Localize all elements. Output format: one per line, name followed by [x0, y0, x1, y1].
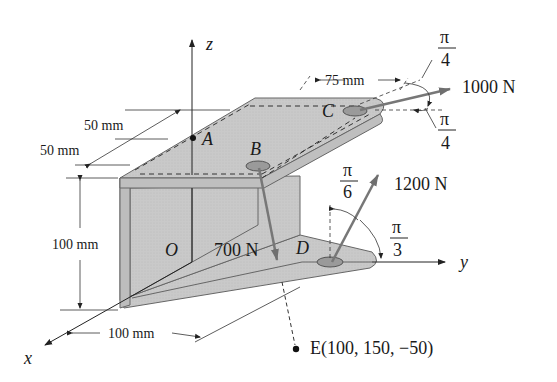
force-at-C: 1000 N π 4 π 4	[360, 27, 516, 153]
bracket-statics-diagram: z y x O A B C D E(100, 150, −50) 50 mm 5…	[0, 0, 557, 382]
point-C-label: C	[322, 101, 335, 121]
origin-label: O	[165, 240, 178, 260]
z-axis-label: z	[205, 34, 213, 54]
dim-75mm: 75 mm	[325, 73, 364, 88]
dim-50mm-upper: 50 mm	[84, 118, 123, 133]
hole-B	[246, 161, 270, 171]
force-B-label: 700 N	[214, 240, 259, 260]
x-axis-label: x	[23, 348, 32, 368]
dim-100mm-height: 100 mm	[52, 237, 98, 252]
angle-C-bottom-num: π	[440, 109, 449, 129]
hole-D	[317, 257, 343, 267]
y-axis-label: y	[458, 252, 468, 272]
hole-C	[343, 106, 367, 116]
angle-D-a-num: π	[343, 160, 352, 180]
dim-50mm-lower: 50 mm	[40, 143, 79, 158]
angle-D-b-den: 3	[393, 240, 402, 260]
angle-C-top-den: 4	[441, 50, 450, 70]
point-E-dot	[293, 346, 299, 352]
point-B-label: B	[250, 139, 261, 159]
dim-100mm-base: 100 mm	[108, 326, 154, 341]
point-A-label: A	[201, 129, 214, 149]
point-A-dot	[190, 135, 196, 141]
point-D-label: D	[295, 238, 309, 258]
point-E-label: E(100, 150, −50)	[310, 338, 433, 359]
force-C-label: 1000 N	[462, 77, 516, 97]
angle-D-b-num: π	[392, 217, 401, 237]
force-D-label: 1200 N	[394, 174, 448, 194]
bracket	[120, 98, 384, 308]
angle-C-top-num: π	[440, 27, 449, 47]
angle-C-bottom-den: 4	[441, 133, 450, 153]
angle-D-a-den: 6	[343, 182, 352, 202]
